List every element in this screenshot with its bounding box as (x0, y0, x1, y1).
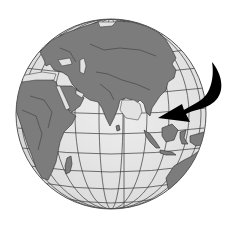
globe-illustration (0, 0, 238, 228)
sri-lanka (116, 125, 120, 131)
